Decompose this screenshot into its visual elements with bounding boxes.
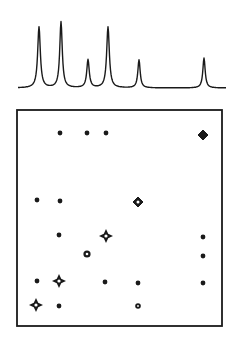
cross-peak-dot [57,233,62,238]
cross-peak-dot [201,281,206,286]
diagonal-peak-center [137,201,140,204]
nmr-figure [0,0,237,342]
cross-peak-dot [136,281,141,286]
1d-spectrum-trace [18,22,226,88]
cross-peak-dot [58,199,63,204]
cross-peak-dot [104,131,109,136]
cross-peak-dot [201,235,206,240]
cross-peak-center [137,305,139,307]
2d-map-frame [17,110,222,326]
cross-peak-dot [201,254,206,259]
diagonal-peaks [29,130,208,312]
cross-peak-dot [57,304,62,309]
diagonal-peak-center [104,234,107,237]
cross-peak-dot [35,198,40,203]
cross-peak-dot [85,131,90,136]
diagonal-peak-diamond [198,130,208,140]
cross-peak-dot [103,280,108,285]
diagonal-peak-center [86,253,89,256]
cross-peak-dot [35,279,40,284]
cross-peak-dot [58,131,63,136]
diagonal-peak-center [34,303,37,306]
diagonal-peak-center [57,279,60,282]
